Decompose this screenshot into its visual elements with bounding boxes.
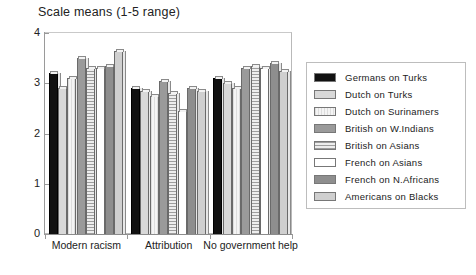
legend-label: French on N.Africans	[345, 174, 439, 185]
legend-swatch-icon	[314, 90, 336, 99]
bar-body	[58, 88, 67, 234]
bar-body	[131, 88, 140, 234]
legend-swatch-icon	[314, 73, 336, 82]
bar-top-cap	[161, 79, 169, 82]
bar	[114, 51, 123, 234]
legend-item-2[interactable]: Dutch on Turks	[314, 86, 465, 103]
bar-body	[159, 81, 168, 234]
x-axis-label-2: Attribution	[145, 239, 192, 251]
bar	[178, 111, 187, 234]
bar-body	[67, 78, 76, 234]
bar	[279, 71, 288, 234]
bar-body	[251, 66, 260, 234]
x-tick-mark	[127, 234, 128, 239]
bar-body	[140, 91, 149, 234]
x-tick-mark	[210, 234, 211, 239]
bar	[131, 88, 140, 234]
bar-top-cap	[151, 94, 159, 97]
legend-label: Dutch on Turks	[345, 89, 412, 100]
bar-body	[223, 83, 232, 234]
legend-item-4[interactable]: British on W.Indians	[314, 120, 465, 137]
bar-top-cap	[50, 71, 58, 74]
legend-label: Americans on Blacks	[345, 191, 438, 202]
bar-body	[86, 68, 95, 234]
legend-item-6[interactable]: French on Asians	[314, 154, 465, 171]
bar	[223, 83, 232, 234]
bar-body	[49, 73, 58, 234]
bar-body	[114, 51, 123, 234]
y-axis-tick-1: 1	[26, 177, 40, 189]
legend-label: Dutch on Surinamers	[345, 106, 439, 117]
bar-body	[197, 91, 206, 234]
bar-side-face	[288, 71, 291, 234]
bar	[197, 91, 206, 234]
legend-item-5[interactable]: British on Asians	[314, 137, 465, 154]
bar-body	[213, 78, 222, 234]
bar	[58, 88, 67, 234]
legend-item-8[interactable]: Americans on Blacks	[314, 188, 465, 205]
bar	[86, 68, 95, 234]
bar-chart-figure: Scale means (1-5 range) 01234 Modern rac…	[0, 0, 476, 275]
bar-top-cap	[224, 81, 232, 84]
legend-item-3[interactable]: Dutch on Surinamers	[314, 103, 465, 120]
bar-body	[270, 63, 279, 234]
bar-top-cap	[281, 69, 289, 72]
bar-top-cap	[59, 86, 67, 89]
x-axis-line	[44, 234, 293, 235]
y-axis-tick-3: 3	[26, 76, 40, 88]
bar-body	[187, 88, 196, 234]
bar-body	[168, 93, 177, 234]
legend-label: Germans on Turks	[345, 72, 427, 83]
bar-top-cap	[116, 49, 124, 52]
bar-body	[150, 96, 159, 234]
legend-item-7[interactable]: French on N.Africans	[314, 171, 465, 188]
bar-top-cap	[97, 66, 105, 69]
legend-label: British on W.Indians	[345, 123, 434, 134]
bar-body	[260, 68, 269, 234]
chart-title: Scale means (1-5 range)	[38, 5, 180, 19]
bar	[96, 68, 105, 234]
chart-legend: Germans on TurksDutch on TurksDutch on S…	[306, 62, 466, 209]
bar	[77, 58, 86, 234]
bar-top-cap	[142, 89, 150, 92]
bar-top-cap	[179, 109, 187, 112]
y-axis-tick-2: 2	[26, 127, 40, 139]
bar-body	[232, 88, 241, 234]
bar-top-cap	[106, 64, 114, 67]
bar-body	[241, 68, 250, 234]
legend-swatch-icon	[314, 192, 336, 201]
bar-group-3	[210, 33, 292, 234]
bar-group-2	[127, 33, 209, 234]
bar-top-cap	[69, 76, 77, 79]
y-axis-tick-4: 4	[26, 26, 40, 38]
legend-swatch-icon	[314, 175, 336, 184]
legend-item-1[interactable]: Germans on Turks	[314, 69, 465, 86]
bar-body	[178, 111, 187, 234]
bar	[159, 81, 168, 234]
bar-top-cap	[271, 61, 279, 64]
bar-top-cap	[78, 56, 86, 59]
bar-top-cap	[88, 66, 96, 69]
bar-top-cap	[252, 64, 260, 67]
bar-body	[77, 58, 86, 234]
bar	[168, 93, 177, 234]
legend-swatch-icon	[314, 158, 336, 167]
bar-top-cap	[215, 76, 223, 79]
bar-group-1	[45, 33, 127, 234]
bar-body	[105, 66, 114, 234]
bar	[49, 73, 58, 234]
x-tick-mark	[45, 234, 46, 239]
bar	[213, 78, 222, 234]
bar	[260, 68, 269, 234]
y-axis-tick-0: 0	[26, 227, 40, 239]
bar	[241, 68, 250, 234]
bars-layer	[45, 33, 292, 234]
bar	[270, 63, 279, 234]
legend-swatch-icon	[314, 141, 336, 150]
legend-swatch-icon	[314, 124, 336, 133]
bar-top-cap	[132, 86, 140, 89]
legend-label: British on Asians	[345, 140, 419, 151]
bar	[67, 78, 76, 234]
bar-body	[279, 71, 288, 234]
bar-top-cap	[234, 86, 242, 89]
